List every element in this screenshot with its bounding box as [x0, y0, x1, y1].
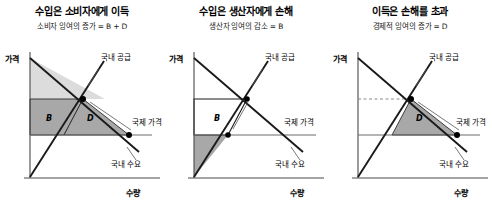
supply-label-leader — [416, 68, 427, 86]
panel-producer-loss: 수입은 생산자에게 손해 생산자 잉여의 감소 = B — [164, 0, 328, 209]
region-b-label: B — [214, 114, 220, 123]
panel-consumer-gain: 수입은 소비자에게 이득 소비자 잉여의 증가 = B + D — [0, 0, 164, 209]
region-b-area — [194, 99, 247, 135]
supply-label-leader — [88, 68, 99, 86]
domestic-supply-label: 국내 공급 — [101, 53, 131, 62]
y-axis-label: 가격 — [169, 54, 183, 64]
x-axis-label: 수량 — [290, 188, 305, 198]
plot-area: 가격 수량 국내 공급 국제 가격 국내 수요 B — [164, 34, 328, 209]
domestic-supply-label: 국내 공급 — [429, 53, 459, 62]
panel-title: 수입은 소비자에게 이득 — [0, 6, 164, 18]
domestic-supply-label: 국내 공급 — [265, 53, 295, 62]
demand-at-world-price-point — [126, 132, 132, 138]
plot-area: 가격 수량 국내 공급 국제 가격 국내 수요 B D — [0, 34, 164, 209]
world-price-label: 국제 가격 — [456, 117, 486, 127]
domestic-demand-label: 국내 수요 — [275, 160, 305, 169]
demand-at-world-price-point — [454, 132, 460, 138]
region-d-area — [392, 99, 457, 135]
domestic-demand-label: 국내 수요 — [111, 160, 141, 169]
plot-area: 가격 수량 국내 공급 국제 가격 국내 수요 D — [328, 34, 492, 209]
y-axis-label: 가격 — [5, 54, 19, 64]
supply-label-leader — [252, 68, 263, 86]
region-d-label: D — [87, 114, 94, 123]
panel-subtitle: 경제적 잉여의 증가 = D — [328, 22, 492, 32]
panel-title: 수입은 생산자에게 손해 — [164, 6, 328, 18]
panel-subtitle: 생산자 잉여의 감소 = B — [164, 22, 328, 32]
imports-welfare-figure: 수입은 소비자에게 이득 소비자 잉여의 증가 = B + D — [0, 0, 492, 209]
domestic-demand-curve — [358, 58, 467, 152]
world-price-label: 국제 가격 — [132, 117, 162, 127]
x-axis-label: 수량 — [454, 188, 469, 198]
supply-at-world-price-point — [225, 132, 231, 138]
panel-net-gain: 이득은 손해를 초과 경제적 잉여의 증가 = D — [328, 0, 492, 209]
equilibrium-point — [408, 96, 414, 102]
domestic-demand-label: 국내 수요 — [439, 160, 469, 169]
equilibrium-point — [244, 96, 250, 102]
world-price-label: 국제 가격 — [284, 117, 314, 127]
region-b-label: B — [46, 114, 52, 123]
x-axis-label: 수량 — [126, 188, 141, 198]
panel-subtitle: 소비자 잉여의 증가 = B + D — [0, 22, 164, 32]
equilibrium-point — [80, 96, 86, 102]
panel-title: 이득은 손해를 초과 — [328, 6, 492, 18]
region-d-label: D — [416, 114, 423, 123]
y-axis-label: 가격 — [333, 54, 347, 64]
